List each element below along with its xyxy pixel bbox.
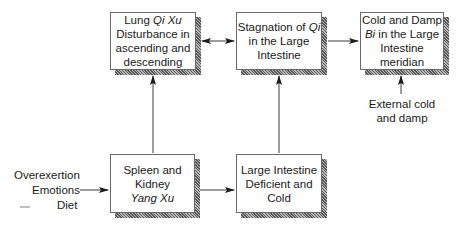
connectors xyxy=(0,0,464,230)
